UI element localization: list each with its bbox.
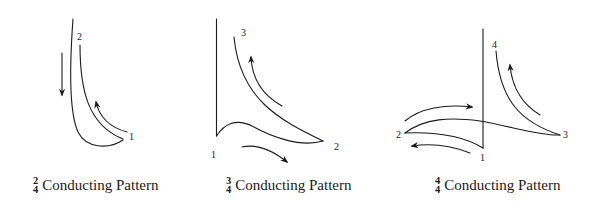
beat-path-rebound xyxy=(234,37,323,141)
left-arrow-icon xyxy=(412,145,470,153)
beat-path-inner xyxy=(80,45,123,139)
pattern-two-four: 2 1 xyxy=(62,19,134,146)
beat-label-1: 1 xyxy=(480,152,485,163)
beat-label-1: 1 xyxy=(211,149,216,160)
beat-label-3: 3 xyxy=(241,27,246,38)
up-arrow-icon xyxy=(251,57,282,106)
beat-label-2: 2 xyxy=(77,31,82,42)
beat-label-3: 3 xyxy=(563,129,568,140)
time-signature: 4 4 xyxy=(435,176,440,194)
time-signature-denominator: 4 xyxy=(435,185,440,194)
time-signature: 2 4 xyxy=(33,176,38,194)
caption-text: Conducting Pattern xyxy=(444,177,560,194)
pattern-four-four: 4 3 2 1 xyxy=(396,29,568,163)
beat-label-1: 1 xyxy=(129,131,134,142)
beat-label-4: 4 xyxy=(492,39,497,50)
time-signature-denominator: 4 xyxy=(226,185,231,194)
time-signature: 3 4 xyxy=(226,176,231,194)
caption-text: Conducting Pattern xyxy=(235,177,351,194)
caption-text: Conducting Pattern xyxy=(42,177,158,194)
time-signature-denominator: 4 xyxy=(33,185,38,194)
right-arrow-icon xyxy=(242,146,287,162)
caption-four-four: 4 4 Conducting Pattern xyxy=(435,173,561,197)
up-arrow-icon xyxy=(96,102,127,132)
beat-path-to-4 xyxy=(496,51,560,135)
pattern-three-four: 3 2 1 xyxy=(211,19,339,162)
caption-three-four: 3 4 Conducting Pattern xyxy=(226,173,352,197)
beat-label-2: 2 xyxy=(334,141,339,152)
up-arrow-icon xyxy=(510,65,540,115)
caption-two-four: 2 4 Conducting Pattern xyxy=(33,173,159,197)
conducting-patterns-figure: 2 1 3 2 1 4 3 2 1 xyxy=(0,0,599,209)
beat-label-2: 2 xyxy=(396,129,401,140)
